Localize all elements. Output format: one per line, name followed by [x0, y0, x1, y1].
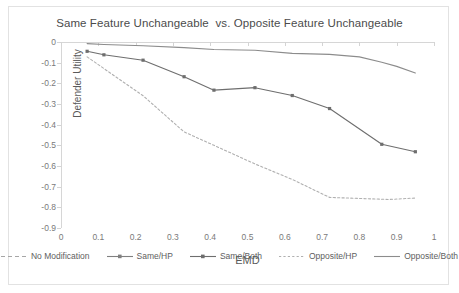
series-marker [102, 53, 105, 56]
series-marker [182, 75, 185, 78]
series-line-opposite-hp [87, 57, 415, 200]
x-tick-label: 0.7 [316, 232, 328, 242]
legend-label: Opposite/Both [404, 251, 458, 261]
legend-item-same-both[interactable]: Same/Both [190, 251, 262, 261]
x-tick-label: 0.4 [204, 232, 216, 242]
y-tick-label: -0.6 [41, 161, 56, 171]
legend-swatch-opposite-both [374, 252, 400, 261]
legend-label: Opposite/HP [309, 251, 357, 261]
x-tick-label: 0.5 [242, 232, 254, 242]
series-line-same-both [87, 51, 415, 151]
y-tick-label: -0.7 [41, 182, 56, 192]
series-marker [414, 150, 417, 153]
legend-label: Same/Both [220, 251, 262, 261]
y-tick-label: -0.2 [41, 78, 56, 88]
series-marker [380, 143, 383, 146]
x-tick-label: 0.8 [353, 232, 365, 242]
chart-frame: Same Feature Unchangeable vs. Opposite F… [8, 6, 449, 285]
x-tick-label: 0.6 [279, 232, 291, 242]
legend-item-no-modification[interactable]: No Modification [1, 251, 90, 261]
legend-swatch-no-modification [1, 252, 27, 261]
y-axis-title: Defender Utility [72, 24, 83, 144]
chart-series-canvas [61, 42, 434, 228]
x-tick-mark [434, 42, 435, 46]
y-tick-label: 0 [51, 37, 56, 47]
series-marker [328, 107, 331, 110]
y-tick-label: -0.9 [41, 223, 56, 233]
legend-swatch-same-both [190, 252, 216, 261]
legend-label: No Modification [31, 251, 90, 261]
series-marker [212, 89, 215, 92]
chart-legend: No ModificationSame/HPSame/BothOpposite/… [9, 251, 450, 261]
series-line-opposite-both [87, 44, 415, 73]
series-marker [141, 59, 144, 62]
y-tick-label: -0.4 [41, 120, 56, 130]
x-tick-label: 0.3 [167, 232, 179, 242]
legend-swatch-opposite-hp [279, 252, 305, 261]
legend-swatch-same-hp [107, 252, 133, 261]
legend-item-opposite-hp[interactable]: Opposite/HP [279, 251, 357, 261]
x-tick-label: 0.2 [130, 232, 142, 242]
legend-label: Same/HP [137, 251, 173, 261]
x-tick-label: 1 [432, 232, 437, 242]
y-tick-label: -0.3 [41, 99, 56, 109]
y-tick-label: -0.8 [41, 202, 56, 212]
series-marker [291, 94, 294, 97]
x-tick-label: 0.9 [391, 232, 403, 242]
x-tick-label: 0.1 [92, 232, 104, 242]
legend-item-same-hp[interactable]: Same/HP [107, 251, 173, 261]
series-marker [253, 86, 256, 89]
plot-area: 0-0.1-0.2-0.3-0.4-0.5-0.6-0.7-0.8-0.9 00… [61, 42, 434, 228]
legend-item-opposite-both[interactable]: Opposite/Both [374, 251, 458, 261]
y-tick-label: -0.1 [41, 58, 56, 68]
y-tick-label: -0.5 [41, 140, 56, 150]
y-tick-mark [57, 228, 61, 229]
x-tick-label: 0 [59, 232, 64, 242]
series-marker [86, 50, 89, 53]
